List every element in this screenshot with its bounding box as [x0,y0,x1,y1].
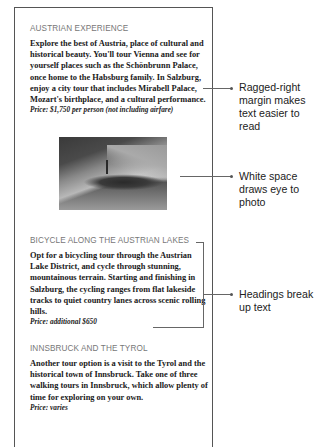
bracket-vertical [203,242,204,328]
section-price: Price: additional $650 [30,317,210,327]
callout-leader-line [203,294,231,295]
section-bicycle: BICYCLE ALONG THE AUSTRIAN LAKES Opt for… [30,236,210,327]
section-price: Price: varies [30,403,210,413]
section-body: Opt for a bicycling tour through the Aus… [30,250,210,317]
callout-dot [230,87,233,90]
bracket-bottom [153,327,204,328]
section-austrian-experience: AUSTRIAN EXPERIENCE Explore the best of … [30,24,210,115]
callout-dot [230,293,233,296]
section-heading: BICYCLE ALONG THE AUSTRIAN LAKES [30,236,210,246]
section-innsbruck: INNSBRUCK AND THE TYROL Another tour opt… [30,344,210,413]
photo-hill [107,145,167,180]
section-heading: INNSBRUCK AND THE TYROL [30,344,210,354]
photo-church-spire [106,160,108,174]
callout-white-space: White space draws eye to photo [239,170,315,209]
section-price: Price: $1,750 per person (not including … [30,105,210,115]
section-body: Another tour option is a visit to the Ty… [30,358,210,403]
callout-leader-line [203,88,231,89]
lake-village-photo [59,137,167,210]
callout-headings: Headings break up text [239,288,315,314]
callout-leader-line [180,176,231,177]
callout-ragged-right: Ragged-right margin makes text easier to… [239,81,315,133]
section-body: Explore the best of Austria, place of cu… [30,38,210,105]
section-heading: AUSTRIAN EXPERIENCE [30,24,210,34]
callout-dot [230,175,233,178]
